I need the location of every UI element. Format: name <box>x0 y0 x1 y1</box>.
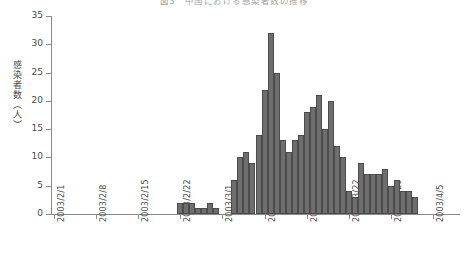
bar-series <box>51 16 460 214</box>
y-axis-tick-label: 5 <box>3 181 43 190</box>
y-axis-tick <box>46 214 51 215</box>
y-axis-ticks: 05101520253035 <box>0 0 51 278</box>
x-axis-tick <box>307 215 308 219</box>
chart-figure: 図3 中国における感染者数の推移 感染者数（人） 05101520253035 … <box>0 0 468 278</box>
x-axis-tick <box>180 215 181 219</box>
bar <box>213 208 219 214</box>
bar <box>412 197 418 214</box>
x-axis-tick <box>138 215 139 219</box>
x-axis-tick <box>265 215 266 219</box>
chart-title: 図3 中国における感染者数の推移 <box>0 0 468 6</box>
x-axis-tick <box>222 215 223 219</box>
y-axis-tick-label: 10 <box>3 152 43 161</box>
y-axis-tick-label: 20 <box>3 96 43 105</box>
x-axis-tick <box>433 215 434 219</box>
x-axis-tick <box>54 215 55 219</box>
y-axis-tick-label: 15 <box>3 124 43 133</box>
y-axis-tick-label: 0 <box>3 209 43 218</box>
x-axis-tick <box>349 215 350 219</box>
y-axis-tick-label: 30 <box>3 39 43 48</box>
x-axis-tick <box>96 215 97 219</box>
y-axis-tick-label: 25 <box>3 68 43 77</box>
y-axis-tick-label: 35 <box>3 11 43 20</box>
x-axis-tick <box>391 215 392 219</box>
